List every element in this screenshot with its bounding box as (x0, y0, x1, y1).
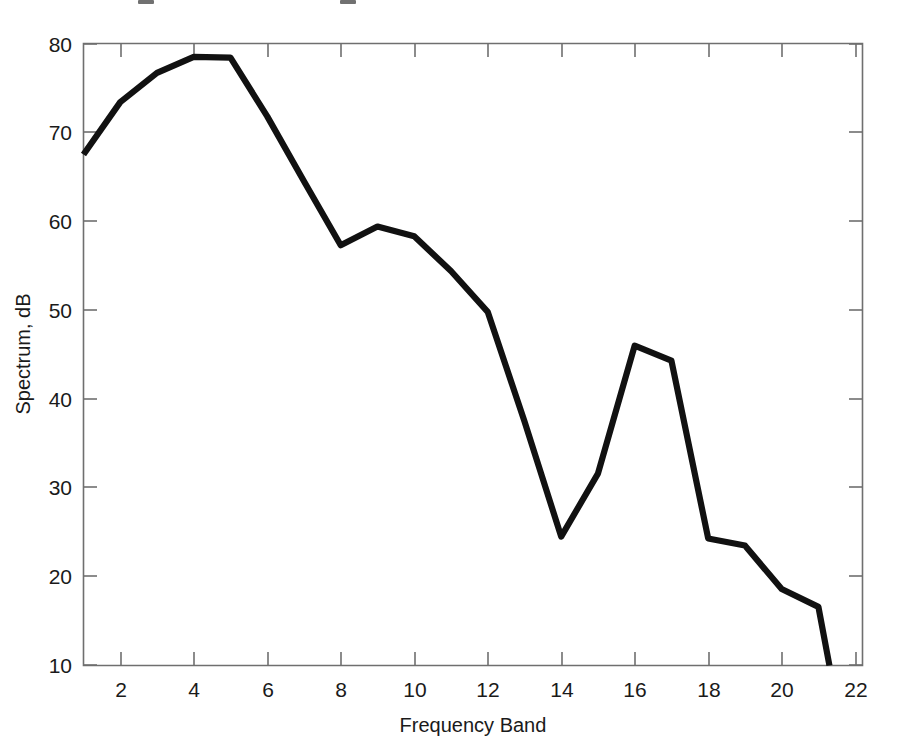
y-tick-label-2: 30 (49, 476, 72, 499)
line-chart: 2 4 6 8 10 12 14 16 18 20 22 10 20 30 40… (0, 0, 897, 746)
series-group (84, 57, 830, 666)
x-tick-label-4: 10 (403, 678, 426, 701)
x-tick-label-9: 20 (770, 678, 793, 701)
y-tick-label-3: 40 (49, 388, 72, 411)
x-tick-label-1: 4 (188, 678, 200, 701)
y-tick-label-7: 80 (49, 33, 72, 56)
y-tick-labels: 10 20 30 40 50 60 70 80 (49, 33, 72, 677)
plot-frame (84, 44, 863, 666)
y-tick-label-0: 10 (49, 654, 72, 677)
x-tick-marks (121, 44, 856, 666)
y-axis-title: Spectrum, dB (12, 293, 34, 414)
y-tick-marks (84, 44, 863, 665)
x-tick-label-7: 16 (623, 678, 646, 701)
x-tick-label-2: 6 (262, 678, 274, 701)
x-tick-label-8: 18 (697, 678, 720, 701)
y-tick-label-4: 50 (49, 299, 72, 322)
figure-canvas: 2 4 6 8 10 12 14 16 18 20 22 10 20 30 40… (0, 0, 897, 746)
spectrum-line (84, 57, 830, 666)
y-tick-label-5: 60 (49, 210, 72, 233)
x-tick-label-3: 8 (335, 678, 347, 701)
x-tick-label-10: 22 (844, 678, 867, 701)
y-tick-label-1: 20 (49, 565, 72, 588)
x-axis-title: Frequency Band (400, 714, 547, 736)
y-tick-label-6: 70 (49, 121, 72, 144)
x-tick-label-0: 2 (115, 678, 127, 701)
x-tick-labels: 2 4 6 8 10 12 14 16 18 20 22 (115, 678, 868, 701)
x-tick-label-5: 12 (476, 678, 499, 701)
x-tick-label-6: 14 (550, 678, 574, 701)
axis-box (84, 44, 863, 666)
